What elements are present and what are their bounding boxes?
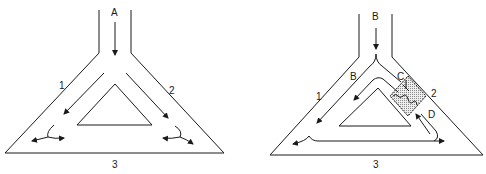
outer-wall-right: [131, 10, 224, 153]
label-base-3-left: 3: [112, 159, 118, 170]
split-right-stem: [175, 126, 181, 137]
label-branch-1-left: 1: [59, 80, 65, 91]
diagram-canvas: A 1 2 3 B B C D 1 2 3: [0, 0, 486, 174]
label-D: D: [428, 109, 435, 120]
outer-wall-left: [270, 14, 359, 155]
branch-left-arrow: [64, 73, 104, 114]
panel-left: [5, 10, 224, 153]
split-left-stem: [48, 125, 54, 137]
label-branch-2-right: 2: [431, 88, 437, 99]
label-base-3-right: 3: [373, 159, 379, 170]
outer-wall-left: [5, 10, 99, 153]
bottom-flow-left-arrow: [293, 136, 309, 144]
split-left-arrow-b: [48, 137, 64, 138]
label-B-inlet: B: [372, 11, 379, 22]
bottom-flow-arrow: [309, 136, 444, 141]
inner-triangle: [77, 84, 152, 125]
label-branch-1-right: 1: [316, 91, 322, 102]
branch-right-arrow: [126, 73, 168, 118]
split-cusp: [317, 54, 376, 123]
split-right-arrow-b: [180, 137, 193, 144]
flow-diagram: A 1 2 3 B B C D 1 2 3: [0, 0, 486, 174]
panel-right: [270, 14, 483, 155]
shaded-region: [390, 76, 426, 116]
split-left-arrow-a: [32, 137, 48, 141]
split-right-arrow-a: [163, 137, 180, 138]
label-A: A: [111, 7, 118, 18]
label-B-inner: B: [350, 71, 357, 82]
label-C: C: [397, 71, 404, 82]
label-branch-2-left: 2: [169, 85, 175, 96]
